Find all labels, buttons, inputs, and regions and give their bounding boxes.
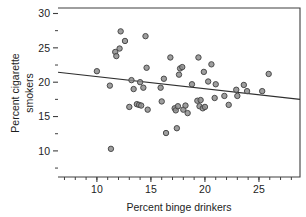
scatter-point — [129, 77, 134, 82]
scatter-point — [234, 87, 239, 92]
scatter-point — [196, 55, 201, 60]
scatter-point — [189, 82, 194, 87]
scatter-point — [180, 64, 185, 69]
scatter-point — [259, 88, 264, 93]
x-axis-label: Percent binge drinkers — [126, 201, 231, 213]
scatter-point — [222, 93, 227, 98]
scatter-point — [244, 88, 249, 93]
scatter-point — [107, 83, 112, 88]
scatter-point — [241, 82, 246, 87]
scatter-point — [266, 71, 271, 76]
scatter-point — [138, 103, 143, 108]
y-axis-label-line2: smokers — [23, 73, 35, 113]
scatter-point — [205, 79, 210, 84]
scatter-point — [143, 33, 148, 38]
scatter-point — [94, 69, 99, 74]
scatter-point — [144, 65, 149, 70]
scatter-point — [176, 72, 181, 77]
scatter-point — [201, 69, 206, 74]
x-tick-label: 15 — [145, 183, 157, 195]
scatter-point — [114, 53, 119, 58]
y-axis-label-line1: Percent cigarette — [9, 53, 21, 133]
scatter-point — [183, 103, 188, 108]
scatter-point — [175, 104, 180, 109]
scatter-point — [117, 46, 122, 51]
scatter-point — [198, 97, 203, 102]
scatter-point — [131, 86, 136, 91]
scatter-point — [108, 146, 113, 151]
scatter-point — [226, 102, 231, 107]
y-tick-label: 25 — [38, 42, 50, 54]
scatter-point — [127, 104, 132, 109]
y-tick-label: 15 — [38, 110, 50, 122]
x-tick-label: 25 — [253, 183, 265, 195]
scatter-point — [174, 126, 179, 131]
scatter-point — [213, 82, 218, 87]
scatter-point — [202, 104, 207, 109]
scatter-point — [235, 93, 240, 98]
scatter-point — [185, 110, 190, 115]
scatter-point — [122, 38, 127, 43]
scatter-point — [209, 62, 214, 67]
scatter-point — [141, 85, 146, 90]
scatter-point — [158, 85, 163, 90]
scatter-point — [161, 76, 166, 81]
x-tick-label: 10 — [91, 183, 103, 195]
scatter-point — [118, 29, 123, 34]
scatter-point — [137, 79, 142, 84]
chart-canvas: 1015202530 10152025 Percent binge drinke… — [0, 0, 306, 217]
y-tick-label: 10 — [38, 145, 50, 157]
y-tick-label: 20 — [38, 76, 50, 88]
scatter-point — [212, 95, 217, 100]
scatter-point — [145, 107, 150, 112]
scatter-point — [159, 99, 164, 104]
scatter-point — [163, 130, 168, 135]
x-tick-label: 20 — [199, 183, 211, 195]
y-tick-label: 30 — [38, 7, 50, 19]
scatter-point — [168, 55, 173, 60]
scatter-plot-figure: 1015202530 10152025 Percent binge drinke… — [0, 0, 306, 217]
